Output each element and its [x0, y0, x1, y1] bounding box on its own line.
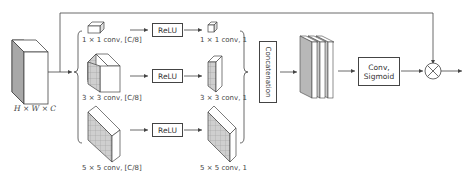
stacked-feature-maps [300, 36, 334, 98]
branch-1x1-in-label: 1 × 1 conv, [C/8] [82, 36, 142, 44]
left-brace [74, 31, 82, 143]
branch-1x1-out-label: 1 × 1 conv, 1 [200, 36, 247, 44]
conv-sigmoid-line1: Conv, [368, 63, 389, 72]
branch-5x5-in-cube [88, 106, 120, 162]
input-label: H × W × C [14, 104, 56, 113]
branch-5x5-in-label: 5 × 5 conv, [C/8] [82, 164, 142, 172]
multiply-icon [425, 63, 441, 79]
branch-1x1-out-cube [208, 22, 217, 32]
branch-3x3-out-label: 3 × 3 conv, 1 [200, 94, 247, 102]
right-brace [240, 31, 248, 143]
relu-box-2: ReLU [152, 69, 183, 83]
branch-5x5-out-cube [208, 106, 236, 162]
branch-3x3-in-label: 3 × 3 conv, [C/8] [82, 94, 142, 102]
conv-sigmoid-line2: Sigmoid [364, 72, 394, 81]
branch-1x1-in-cube [88, 22, 104, 33]
relu-box-3: ReLU [152, 123, 183, 137]
concatenation-box: Concatenation [259, 41, 277, 103]
concatenation-label: Concatenation [264, 47, 272, 98]
branch-5x5-out-label: 5 × 5 conv, 1 [200, 164, 247, 172]
input-tensor [12, 40, 48, 104]
diagram-canvas [0, 0, 471, 178]
relu-box-1: ReLU [152, 23, 183, 37]
branch-3x3-out-cube [208, 56, 222, 92]
conv-sigmoid-box: Conv, Sigmoid [358, 57, 400, 86]
branch-3x3-in-cube [88, 54, 120, 92]
